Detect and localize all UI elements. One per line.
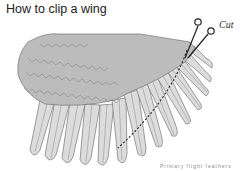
wing-illustration xyxy=(0,0,250,171)
cut-label: Cut xyxy=(219,19,233,30)
caption: Primary flight feathers xyxy=(160,163,232,169)
